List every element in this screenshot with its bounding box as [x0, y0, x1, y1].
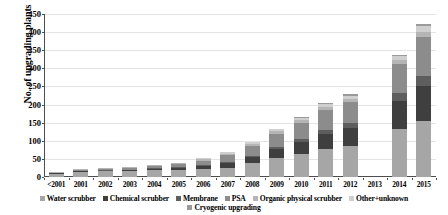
- x-tick-mark: [93, 178, 94, 180]
- bar-segment[interactable]: [220, 168, 235, 177]
- bar-column[interactable]: [240, 14, 265, 177]
- bar-column[interactable]: [118, 14, 143, 177]
- bar-stack: [416, 24, 431, 177]
- bar-segment[interactable]: [122, 171, 137, 177]
- legend-label: Cryogenic upgrading: [194, 203, 260, 212]
- bar-column[interactable]: [338, 14, 363, 177]
- x-tick-label: 2002: [93, 178, 118, 191]
- bar-stack: [318, 103, 333, 177]
- bar-segment[interactable]: [269, 134, 284, 147]
- x-tick-mark: [363, 178, 364, 180]
- legend-swatch-icon: [187, 205, 192, 210]
- bar-segment[interactable]: [245, 163, 260, 177]
- x-tick-mark: [387, 178, 388, 180]
- bar-segment[interactable]: [392, 93, 407, 101]
- y-tick-label: 300: [28, 63, 41, 73]
- bar-stack: [196, 158, 211, 177]
- bar-segment[interactable]: [73, 172, 88, 177]
- bar-column[interactable]: [412, 14, 437, 177]
- bar-segment[interactable]: [294, 154, 309, 177]
- legend-item[interactable]: Chemical scrubber: [103, 194, 169, 203]
- x-tick-mark: [118, 178, 119, 180]
- x-tick-label: 2008: [240, 178, 265, 191]
- legend-item[interactable]: Organic physical scrubber: [253, 194, 342, 203]
- bar-segment[interactable]: [269, 149, 284, 158]
- bar-segment[interactable]: [392, 129, 407, 177]
- bar-segment[interactable]: [343, 102, 358, 123]
- bar-segment[interactable]: [318, 134, 333, 149]
- plot-area: 050100150200250300350400450: [44, 14, 436, 177]
- y-tick-label: 400: [28, 27, 41, 37]
- bar-stack: [392, 55, 407, 177]
- bar-column[interactable]: [387, 14, 412, 177]
- bar-column[interactable]: [142, 14, 167, 177]
- legend-swatch-icon: [253, 196, 258, 201]
- x-axis-labels: <200120012002200320042005200620072008200…: [44, 178, 436, 191]
- y-tick-label: 100: [28, 136, 41, 146]
- legend-item[interactable]: PSA: [225, 194, 246, 203]
- x-tick-label: 2006: [191, 178, 216, 191]
- x-tick-mark: [240, 178, 241, 180]
- legend-item[interactable]: Membrane: [176, 194, 218, 203]
- bar-column[interactable]: [363, 14, 388, 177]
- x-tick-label: 2005: [167, 178, 192, 191]
- y-tick-label: 150: [28, 118, 41, 128]
- x-tick-label: 2009: [265, 178, 290, 191]
- legend-label: Other+unknown: [356, 194, 408, 203]
- bar-stack: [245, 142, 260, 177]
- bar-segment[interactable]: [294, 142, 309, 154]
- bar-column[interactable]: [216, 14, 241, 177]
- bar-column[interactable]: [167, 14, 192, 177]
- y-tick-label: 350: [28, 45, 41, 55]
- bar-segment[interactable]: [318, 110, 333, 130]
- legend-swatch-icon: [225, 196, 230, 201]
- bar-stack: [122, 167, 137, 177]
- legend-item[interactable]: Water scrubber: [40, 194, 96, 203]
- bar-segment[interactable]: [269, 158, 284, 177]
- x-tick-mark: [338, 178, 339, 180]
- bar-segment[interactable]: [343, 146, 358, 177]
- stacked-bar-chart: No. of upgrading plants 0501001502002503…: [0, 0, 448, 215]
- bar-segment[interactable]: [416, 76, 431, 86]
- bar-segment[interactable]: [196, 169, 211, 177]
- bar-column[interactable]: [44, 14, 69, 177]
- bar-segment[interactable]: [98, 171, 113, 177]
- bar-segment[interactable]: [49, 174, 64, 177]
- bar-segment[interactable]: [343, 128, 358, 145]
- bar-segment[interactable]: [392, 64, 407, 92]
- bar-column[interactable]: [191, 14, 216, 177]
- legend-swatch-icon: [103, 196, 108, 201]
- bar-segment[interactable]: [416, 37, 431, 76]
- bar-stack: [220, 152, 235, 177]
- x-tick-mark: [289, 178, 290, 180]
- x-tick-label: 2011: [314, 178, 339, 191]
- x-tick-label: 2007: [216, 178, 241, 191]
- bar-segment[interactable]: [245, 146, 260, 155]
- bar-segment[interactable]: [416, 86, 431, 120]
- bar-column[interactable]: [93, 14, 118, 177]
- bar-column[interactable]: [289, 14, 314, 177]
- bar-segment[interactable]: [171, 170, 186, 177]
- x-tick-label: <2001: [44, 178, 69, 191]
- x-tick-mark: [314, 178, 315, 180]
- legend-swatch-icon: [349, 196, 354, 201]
- legend-item[interactable]: Other+unknown: [349, 194, 408, 203]
- bar-segment[interactable]: [147, 170, 162, 177]
- bar-segment[interactable]: [294, 123, 309, 139]
- bar-segment[interactable]: [416, 121, 431, 178]
- legend-item[interactable]: Cryogenic upgrading: [187, 203, 260, 212]
- bar-stack: [147, 165, 162, 177]
- bar-segment[interactable]: [318, 149, 333, 177]
- x-tick-mark: [265, 178, 266, 180]
- x-tick-mark: [216, 178, 217, 180]
- x-tick-mark: [191, 178, 192, 180]
- bar-column[interactable]: [314, 14, 339, 177]
- bar-column[interactable]: [265, 14, 290, 177]
- bar-segment[interactable]: [392, 101, 407, 129]
- bar-stack: [171, 163, 186, 177]
- x-tick-label: 2013: [363, 178, 388, 191]
- x-tick-label: 2012: [338, 178, 363, 191]
- x-tick-mark: [167, 178, 168, 180]
- bar-column[interactable]: [69, 14, 94, 177]
- x-tick-mark: [412, 178, 413, 180]
